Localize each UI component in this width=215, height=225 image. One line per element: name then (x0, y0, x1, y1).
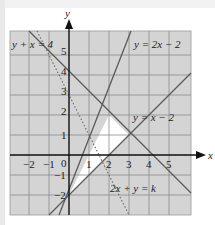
y-axis-label: y (64, 7, 70, 19)
x-tick: −1 (43, 158, 55, 170)
y-tick: 4 (61, 65, 67, 77)
y-tick: 2 (61, 105, 67, 117)
x-tick: −2 (23, 158, 35, 170)
y-tick: −2 (54, 189, 66, 201)
x-axis-label: x (207, 149, 213, 161)
x-tick: 1 (86, 158, 92, 170)
x-tick: 2 (106, 158, 112, 170)
y-tick: 5 (61, 45, 67, 57)
plot-area (10, 31, 191, 215)
y-axis-arrow-icon (65, 19, 73, 29)
x-axis-arrow-icon (196, 151, 206, 159)
x-tick: 3 (126, 158, 132, 170)
label-y-plus-x-eq-4: y + x = 4 (11, 38, 54, 50)
label-y-eq-x-minus-2: y = x − 2 (132, 111, 175, 123)
label-y-eq-2x-minus-2: y = 2x − 2 (133, 38, 181, 50)
y-tick: 1 (61, 129, 67, 141)
x-tick: 5 (166, 158, 172, 170)
graph: x y 0 −2 −1 1 2 3 4 5 5 4 3 2 1 −1 −2 y … (0, 0, 215, 225)
x-tick: 4 (146, 158, 152, 170)
origin-label: 0 (61, 157, 67, 169)
y-tick: −1 (54, 169, 66, 181)
label-2x-plus-y-eq-k: 2x + y = k (110, 182, 157, 194)
y-tick: 3 (61, 85, 67, 97)
